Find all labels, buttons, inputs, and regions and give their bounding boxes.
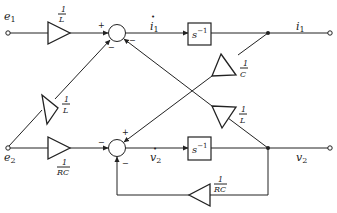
label-i1: i1	[296, 20, 305, 34]
svg-text:RC: RC	[213, 185, 226, 194]
gain-label-diag: 1 L	[62, 95, 70, 115]
gain-label-l-cross: 1 L	[239, 105, 247, 125]
svg-text:i1: i1	[150, 20, 159, 34]
sign-minus: −	[108, 43, 115, 52]
sign-plus: +	[122, 128, 129, 137]
svg-text:L: L	[62, 106, 68, 115]
svg-text:1: 1	[218, 175, 223, 184]
wire-diag-in	[32, 110, 42, 121]
input-node-e1	[6, 31, 10, 35]
wire-l-sum1	[124, 39, 212, 106]
wire-e2-diag	[9, 121, 32, 146]
sign-minus: −	[98, 138, 105, 147]
svg-text:1: 1	[62, 158, 67, 167]
wire-dot1-c	[238, 33, 268, 55]
gain-label-bottom: 1 RC	[56, 158, 70, 177]
gain-1-over-RC-input	[48, 137, 70, 159]
wire-diag-sum1	[55, 40, 110, 99]
output-node-i1	[328, 31, 332, 35]
gain-1-over-C	[212, 54, 236, 76]
svg-text:L: L	[58, 15, 64, 24]
wire-c-sum2	[124, 76, 212, 142]
summing-junction-top	[109, 25, 126, 42]
gain-1-over-RC-feedback	[189, 184, 210, 206]
summing-junction-bottom	[109, 140, 126, 157]
svg-text:1: 1	[64, 95, 69, 104]
gain-1-over-L-diag	[42, 95, 58, 124]
gain-label-feedback: 1 RC	[213, 175, 227, 194]
svg-text:L: L	[239, 116, 245, 125]
label-v2: v2	[296, 151, 307, 165]
sign-minus: −	[122, 159, 129, 168]
gain-1-over-L-cross	[212, 106, 236, 128]
label-e1: e1	[4, 10, 16, 24]
input-node-e2	[6, 146, 10, 150]
svg-text:1: 1	[61, 5, 66, 14]
sign-plus: +	[98, 21, 105, 30]
label-e2: e2	[4, 151, 16, 165]
block-diagram: e1 1 L + − − • i1 s−1 i1 e2 1 RC + − − •…	[0, 0, 337, 213]
derivative-label-i1: • i1	[150, 13, 159, 34]
gain-label-c: 1 C	[240, 59, 248, 79]
gain-1-over-L-top	[48, 22, 70, 44]
svg-text:v2: v2	[150, 151, 161, 165]
svg-text:RC: RC	[56, 168, 69, 177]
svg-text:1: 1	[241, 105, 246, 114]
output-node-v2	[328, 146, 332, 150]
svg-text:C: C	[240, 70, 246, 79]
gain-label-top: 1 L	[58, 5, 66, 24]
svg-text:1: 1	[243, 59, 248, 68]
wire-dot2-l	[228, 118, 268, 148]
